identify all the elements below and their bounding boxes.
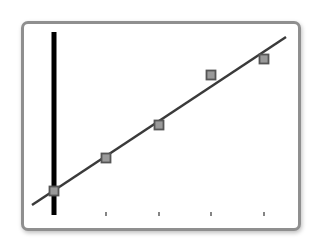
x-axis-ticks bbox=[106, 212, 264, 216]
chart-plot bbox=[0, 0, 322, 242]
data-point bbox=[260, 55, 269, 64]
data-point bbox=[102, 154, 111, 163]
data-point bbox=[155, 121, 164, 130]
data-point bbox=[207, 71, 216, 80]
data-point bbox=[50, 187, 59, 196]
data-point-markers bbox=[50, 55, 269, 196]
